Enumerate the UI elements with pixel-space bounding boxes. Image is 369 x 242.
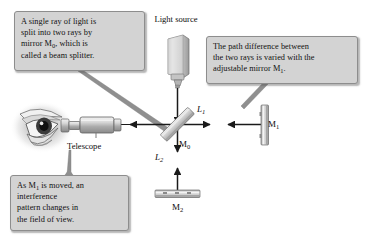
callout-interference-pattern: As M1 is moved, an interference pattern … xyxy=(10,175,129,231)
callout-line-3: pattern changes in xyxy=(17,203,78,212)
callout-line-3b: , which is xyxy=(55,39,88,48)
callout-line-1: The path difference between xyxy=(213,42,309,51)
callout-line-1: A single ray of light is xyxy=(21,17,96,26)
callout-line-3a: mirror M xyxy=(21,39,52,48)
callout-line-1-sub: 1 xyxy=(36,184,39,191)
callout-line-1a: As M xyxy=(17,181,36,190)
callout-line-4: called a beam splitter. xyxy=(21,51,95,60)
callout-line-3a: adjustable mirror M xyxy=(213,64,280,73)
callout-path-difference: The path difference between the two rays… xyxy=(206,36,358,84)
mirror-m2-label-base: M xyxy=(172,202,180,212)
mirror-m2 xyxy=(155,190,200,198)
callout-line-2: interference xyxy=(17,192,57,201)
callout-line-3-sub: 1 xyxy=(280,67,283,74)
arm-l2-label-sub: 2 xyxy=(160,156,163,163)
light-source-label: Light source xyxy=(154,14,198,24)
callout-beam-splitter: A single ray of light is split into two … xyxy=(14,11,145,71)
callout-line-1b: is moved, an xyxy=(39,181,84,190)
telescope-label: Telescope xyxy=(67,141,101,151)
callout-line-4: the field of view. xyxy=(17,215,74,224)
mirror-m0-label-base: M xyxy=(179,139,187,149)
callout-line-2: split into two rays by xyxy=(21,28,92,37)
mirror-m1-label-sub: 1 xyxy=(276,123,279,130)
light-source-lamp xyxy=(168,35,189,88)
mirror-m2-label: M2 xyxy=(172,202,183,213)
callout-line-3-sub: 0 xyxy=(52,42,55,49)
arm-l1-label: L1 xyxy=(197,104,205,115)
figure-canvas: A single ray of light is split into two … xyxy=(0,0,369,242)
arm-l1-label-sub: 1 xyxy=(202,108,205,115)
callout-pointer-interference xyxy=(64,150,74,176)
mirror-m2-label-sub: 2 xyxy=(180,206,183,213)
mirror-m1-label: M1 xyxy=(268,119,279,130)
mirror-m0-label: M0 xyxy=(179,139,190,150)
mirror-m1-label-base: M xyxy=(268,119,276,129)
arm-l2-label: L2 xyxy=(155,152,163,163)
mirror-m0-label-sub: 0 xyxy=(187,143,190,150)
callout-line-2: the two rays is varied with the xyxy=(213,53,315,62)
